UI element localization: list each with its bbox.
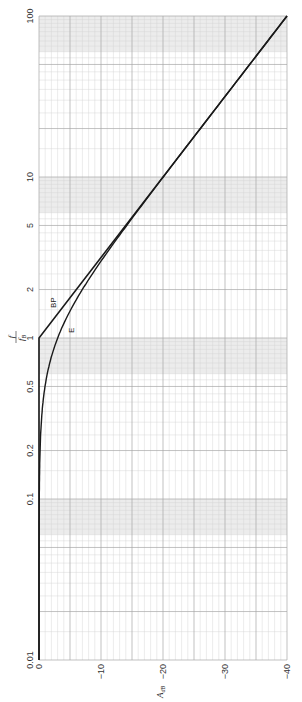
x-axis-label-den-sub: B (21, 335, 27, 339)
y-tick-label: −40 (282, 664, 292, 679)
bode-chart: 0.010.10.20.512510100 0−10−20−30−40 BP E… (0, 0, 302, 702)
y-axis-label: AdB (155, 686, 166, 700)
label-bp: BP (49, 297, 58, 308)
label-e: E (67, 328, 76, 333)
x-tick-label: 0.2 (25, 444, 35, 457)
y-tick-label: 0 (34, 664, 44, 669)
y-tick-label: −30 (220, 664, 230, 679)
x-axis-label-num: f (6, 334, 16, 338)
y-axis-label-sub: dB (160, 686, 166, 693)
y-tick-label: −10 (96, 664, 106, 679)
y-tick-label: −20 (158, 664, 168, 679)
x-tick-label: 100 (25, 8, 35, 23)
y-axis-tick-labels: 0−10−20−30−40 (34, 664, 292, 679)
x-tick-label: 0.1 (25, 493, 35, 506)
svg-text:fB: fB (16, 335, 27, 342)
x-tick-label: 10 (25, 172, 35, 182)
x-tick-label: 0.5 (25, 380, 35, 393)
x-axis-label: f fB (6, 331, 27, 343)
svg-text:AdB: AdB (155, 686, 166, 700)
x-tick-label: 5 (25, 223, 35, 228)
x-tick-label: 2 (25, 287, 35, 292)
